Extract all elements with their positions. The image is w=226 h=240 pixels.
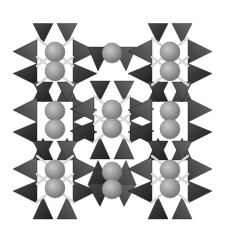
tetrahedron [13,40,37,64]
tetrahedron [13,181,37,203]
atom-sphere [160,101,180,121]
atom-sphere [102,43,122,63]
atom-sphere [160,42,180,62]
atom-sphere [45,119,65,139]
tetrahedron [188,122,212,144]
atom-sphere [45,61,65,81]
atom-sphere [45,42,65,62]
crystal-structure-figure [0,0,226,240]
atom-sphere [45,160,65,180]
tetrahedron [188,40,212,64]
tetrahedron [128,40,152,64]
atom-sphere [102,179,122,199]
tetrahedron [13,98,37,122]
atom-sphere [160,160,180,180]
atom-sphere [102,118,122,138]
tetrahedron [188,157,212,181]
atom-sphere [45,101,65,121]
atom-sphere [102,100,122,120]
atom-sphere [160,178,180,198]
atom-sphere [160,61,180,81]
tetrahedron [188,181,212,203]
tetrahedron [13,122,37,144]
atom-sphere [160,119,180,139]
structure-canvas [0,0,226,240]
atoms-layer [45,42,180,199]
tetrahedron [13,157,37,181]
tetrahedron [188,98,212,122]
atom-sphere [45,178,65,198]
